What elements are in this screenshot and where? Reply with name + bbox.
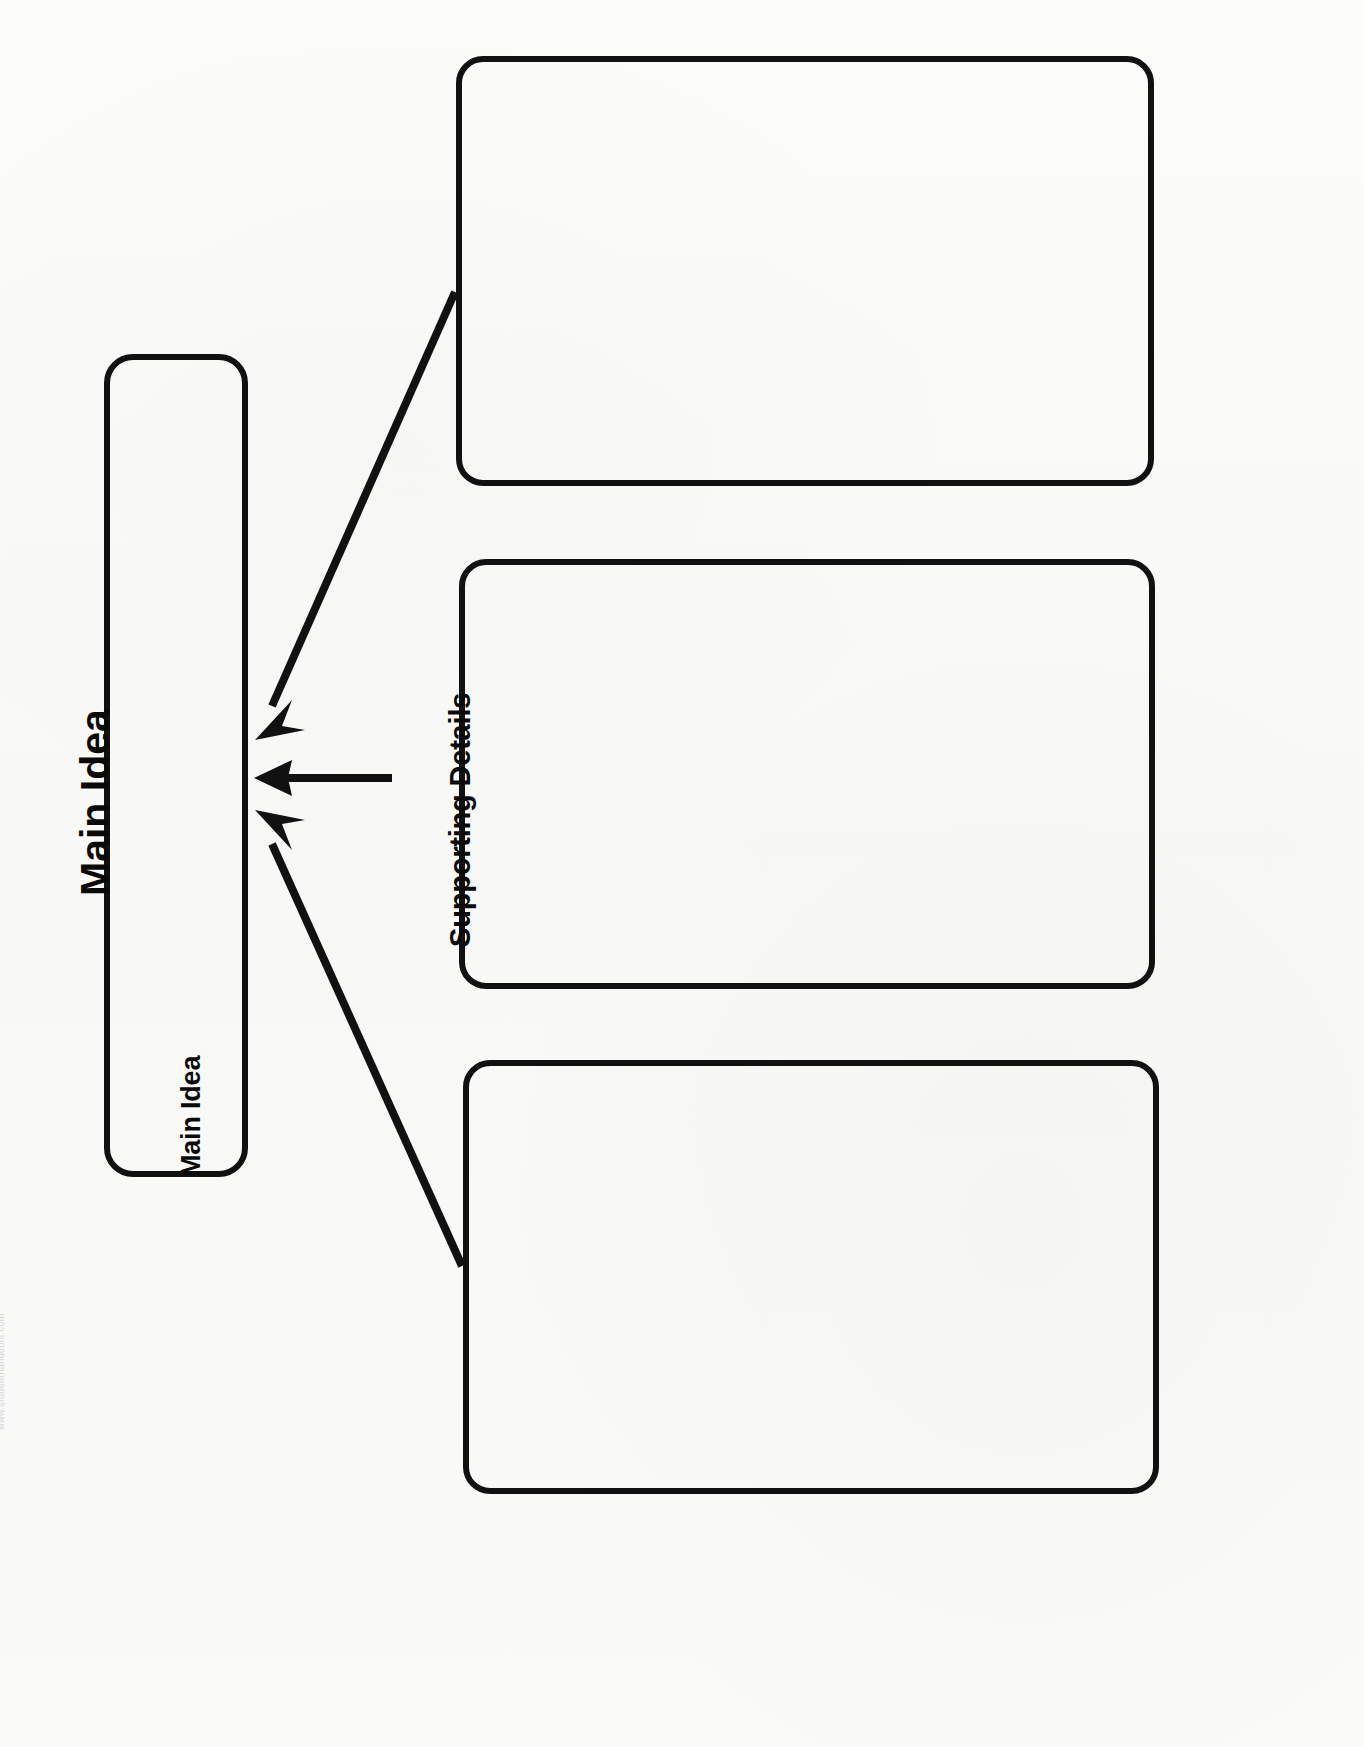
main-idea-box-label: Main Idea [176,1056,207,1177]
supporting-detail-box-1[interactable] [459,59,1151,483]
organizer-drawing-layer [0,0,1364,1747]
arrow-detail-3-to-main-idea [255,810,462,1266]
supporting-detail-box-2[interactable] [462,562,1152,986]
page-title: Main Idea [72,709,119,896]
supporting-detail-box-3[interactable] [466,1063,1156,1491]
arrow-detail-1-to-main-idea [255,292,455,740]
arrow-detail-2-to-main-idea [254,760,392,796]
main-idea-box[interactable] [107,357,245,1174]
worksheet-page: Main Idea Main Idea Supporting Details w… [0,0,1364,1747]
supporting-details-label: Supporting Details [444,693,477,947]
source-watermark: www.studenthandouts.com [0,1313,6,1430]
